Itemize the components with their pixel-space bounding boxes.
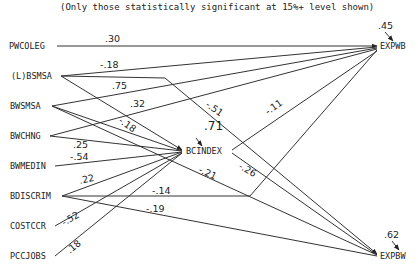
coef-lbsmsa-expbw: -.51	[204, 99, 226, 119]
node-bdiscrim: BDISCRIM	[10, 191, 51, 201]
node-bwchng: BWCHNG	[10, 131, 41, 141]
coef-bwmedin-bcindex: -.54	[70, 151, 89, 162]
coef-costccr-bcindex: -.52	[60, 209, 82, 228]
coef-bdiscrim-bcindex: .22	[78, 172, 95, 186]
coef-lbsmsa-expwb: -.18	[100, 59, 119, 70]
coef-bwsmsa-expwb: .75	[112, 80, 127, 91]
residual-expbw: .62	[384, 229, 399, 240]
path-bcindex-expwb	[232, 51, 377, 150]
node-pccjobs: PCCJOBS	[10, 251, 46, 261]
residual-expwb: .45	[378, 20, 393, 31]
coef-bdiscrim-expbw: -.19	[146, 203, 165, 214]
path-bwsmsa-bcindex	[52, 106, 182, 151]
node-lbsmsa: (L)BSMSA	[11, 71, 52, 81]
node-costccr: COSTCCR	[10, 221, 46, 231]
node-bcindex: BCINDEX	[186, 146, 222, 156]
coef-bdiscrim-expwb: -.14	[152, 185, 171, 196]
coef-pccjobs-bcindex: .18	[64, 237, 83, 255]
path-bdiscrim-expbw	[62, 196, 377, 256]
residual-arrow-expbw	[392, 241, 399, 250]
coef-bwchng-expwb: .32	[130, 98, 145, 109]
coef-bcindex-expwb: -.11	[263, 97, 285, 117]
coef-bcindex-expbw: -.26	[237, 160, 259, 179]
node-bwmedin: BWMEDIN	[10, 161, 46, 171]
node-expbw: EXPBW	[380, 251, 406, 261]
coef-bwsmsa-expbw: -.21	[197, 164, 218, 182]
path-lbsmsa-expbw	[61, 76, 377, 254]
coef-pwcoleg-expwb: .30	[105, 33, 120, 44]
coef-bwchng-bcindex: .25	[73, 139, 88, 150]
residual-arrow-expwb	[385, 32, 393, 41]
residual-bcindex: .71	[204, 119, 223, 133]
residual-arrow-bcindex	[196, 138, 202, 146]
node-expwb: EXPWB	[380, 41, 406, 51]
path-diagram: .30 -.18 .75 .32 -.18 -.51 -.11 .25 -.54…	[0, 0, 418, 272]
node-bwsmsa: BWSMSA	[10, 101, 41, 111]
coef-lbsmsa-bcindex: -.18	[117, 115, 139, 135]
node-pwcoleg: PWCOLEG	[9, 41, 45, 51]
